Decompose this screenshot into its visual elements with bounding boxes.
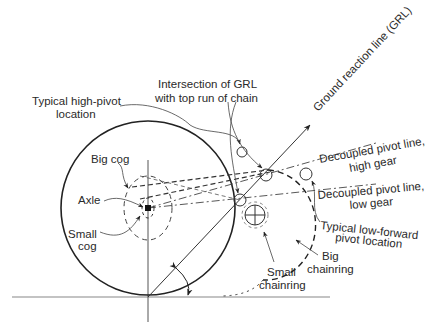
- leader-big-cog: [118, 163, 128, 188]
- leader-big-chainring: [296, 240, 318, 255]
- svg-text:chainring: chainring: [259, 279, 306, 291]
- chain-top-run-big: [132, 170, 268, 187]
- leader-small-cog: [100, 216, 140, 235]
- chain-top-run-small: [140, 172, 270, 199]
- label-big-cog: Big cog: [91, 153, 129, 165]
- axle-point: [145, 205, 151, 211]
- diagram-canvas: Intersection of GRL with top run of chai…: [0, 0, 438, 334]
- pivot-geometry-diagram: Intersection of GRL with top run of chai…: [0, 0, 438, 334]
- label-big-chainring: Big: [322, 250, 339, 262]
- label-axle: Axle: [78, 194, 100, 206]
- label-small-chainring: Small: [267, 266, 296, 278]
- high-pivot-location: [237, 147, 247, 157]
- low-forward-pivot-location: [300, 168, 312, 180]
- leader-high-pivot: [120, 105, 240, 144]
- leader-axle: [104, 198, 143, 207]
- label-intersection: Intersection of GRL: [158, 78, 258, 90]
- label-small-cog: Small: [68, 228, 97, 240]
- angle-arc: [176, 268, 189, 295]
- label-grl: Ground reaction line (GRL): [311, 4, 414, 113]
- svg-text:low gear: low gear: [349, 195, 394, 211]
- svg-text:cog: cog: [78, 240, 97, 252]
- leader-low-forward: [312, 181, 320, 222]
- intersection-grl-chain-point: [260, 169, 272, 181]
- svg-text:chainring: chainring: [307, 263, 354, 275]
- label-high-pivot: Typical high-pivot: [32, 95, 122, 107]
- svg-text:location: location: [56, 108, 96, 120]
- svg-text:with top run of chain: with top run of chain: [154, 92, 258, 104]
- leader-small-chainring: [264, 232, 274, 262]
